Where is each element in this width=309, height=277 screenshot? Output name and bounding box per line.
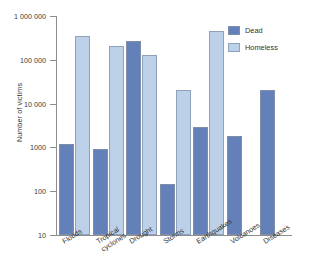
- bar-homeless[interactable]: [142, 55, 157, 235]
- bar-dead[interactable]: [59, 144, 74, 235]
- y-tick-mark: [50, 191, 56, 192]
- y-tick-label: 1 000 000: [14, 12, 46, 21]
- bar-dead[interactable]: [160, 184, 175, 236]
- y-tick-mark: [50, 147, 56, 148]
- legend-swatch-homeless-icon: [228, 43, 240, 52]
- bar-chart: Number of victims 1 000 000100 00010 000…: [0, 0, 309, 277]
- y-tick-mark: [50, 235, 56, 236]
- legend-swatch-dead-icon: [228, 26, 240, 35]
- y-tick-label: 1000: [30, 143, 46, 152]
- y-tick-label: 10 000: [24, 99, 46, 108]
- bar-homeless[interactable]: [75, 36, 90, 235]
- bar-homeless[interactable]: [109, 46, 124, 235]
- bar-group: [93, 16, 127, 235]
- bar-dead[interactable]: [193, 127, 208, 235]
- y-tick-label: 10: [38, 231, 46, 240]
- y-tick-mark: [50, 104, 56, 105]
- legend-item-dead[interactable]: Dead: [228, 24, 278, 37]
- bar-group: [59, 16, 93, 235]
- y-tick-label: 100 000: [20, 55, 46, 64]
- y-axis-title: Number of victims: [15, 53, 24, 173]
- bar-group: [126, 16, 160, 235]
- y-tick-label: 100: [34, 187, 46, 196]
- bar-dead[interactable]: [260, 90, 275, 235]
- bar-homeless[interactable]: [209, 31, 224, 235]
- y-tick-mark: [50, 16, 56, 17]
- bar-group: [160, 16, 194, 235]
- bar-dead[interactable]: [126, 41, 141, 235]
- legend-label-dead: Dead: [245, 26, 263, 35]
- bar-homeless[interactable]: [176, 90, 191, 235]
- legend-label-homeless: Homeless: [245, 43, 278, 52]
- bar-group: [193, 16, 227, 235]
- y-tick-mark: [50, 60, 56, 61]
- bar-dead[interactable]: [93, 149, 108, 235]
- legend-item-homeless[interactable]: Homeless: [228, 41, 278, 54]
- legend: Dead Homeless: [228, 24, 278, 58]
